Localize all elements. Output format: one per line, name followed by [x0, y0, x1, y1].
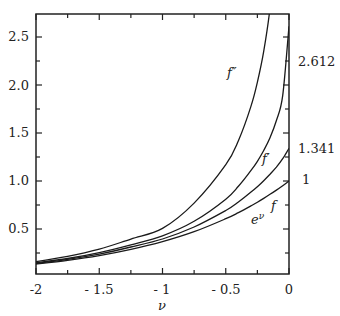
- y-tick-2.0: 2.0: [8, 78, 29, 93]
- curve-f-prime: [36, 26, 289, 263]
- y-tick-1.5: 1.5: [8, 125, 29, 140]
- curve-label-f: f: [270, 198, 278, 213]
- x-tick-0: 0: [285, 282, 293, 297]
- curve-label-f-prime: f′: [261, 151, 270, 166]
- curve-f-double-prime: [36, 0, 283, 262]
- x-axis-labels: -2 - 1.5 - 1 - 0.5 0 ν: [30, 282, 293, 313]
- curve-label-exp: eν: [251, 211, 265, 227]
- chart-canvas: 2.5 2.0 1.5 1.0 0.5 -2 - 1.5 - 1 - 0.5 0…: [0, 0, 340, 316]
- y-tick-0.5: 0.5: [8, 221, 29, 236]
- end-value-f-prime: 2.612: [298, 54, 335, 69]
- y-tick-2.5: 2.5: [8, 29, 29, 44]
- end-value-f: 1.341: [298, 141, 335, 156]
- x-tick--0.5: - 0.5: [211, 282, 240, 297]
- y-axis-labels: 2.5 2.0 1.5 1.0 0.5: [8, 29, 29, 236]
- x-axis-title: ν: [158, 298, 166, 313]
- y-tick-1.0: 1.0: [8, 173, 29, 188]
- axis-ticks: [36, 14, 289, 274]
- end-value-exp: 1: [302, 172, 310, 187]
- x-tick--1: - 1: [154, 282, 171, 297]
- curve-label-f-double-prime: f″: [226, 65, 237, 80]
- x-tick--2: -2: [30, 282, 43, 297]
- plot-frame: [36, 14, 289, 274]
- x-tick--1.5: - 1.5: [84, 282, 113, 297]
